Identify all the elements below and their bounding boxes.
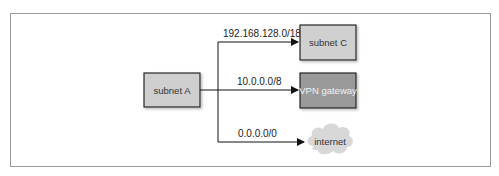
node-internet-label: internet	[314, 136, 346, 147]
node-subnet-a-label: subnet A	[154, 85, 192, 96]
node-vpn-gateway: VPN gateway	[299, 73, 357, 108]
node-subnet-c: subnet C	[300, 25, 356, 60]
route-label-0: 192.168.128.0/18	[223, 28, 301, 39]
routing-diagram: subnet A 192.168.128.0/18 10.0.0.0/8 0.0…	[0, 0, 499, 176]
route-label-1: 10.0.0.0/8	[237, 76, 282, 87]
node-subnet-a: subnet A	[144, 73, 200, 107]
connectors	[200, 42, 304, 142]
node-vpn-gateway-label: VPN gateway	[299, 85, 357, 96]
route-label-2: 0.0.0.0/0	[238, 128, 277, 139]
node-internet: internet	[307, 124, 353, 155]
node-subnet-c-label: subnet C	[309, 37, 347, 48]
